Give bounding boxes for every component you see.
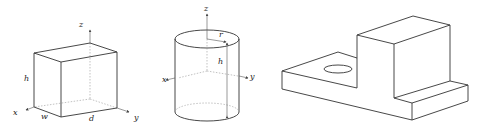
box-label-x: x bbox=[13, 108, 18, 117]
cyl-x-axis bbox=[166, 78, 175, 80]
box-label-y: y bbox=[133, 113, 139, 122]
hole-ellipse bbox=[324, 65, 352, 73]
cylinder-bottom-front bbox=[175, 112, 239, 121]
box-label-h: h bbox=[24, 74, 29, 83]
cyl-y-hidden bbox=[207, 71, 238, 76]
cyl-label-z: z bbox=[203, 4, 209, 13]
cyl-label-h: h bbox=[218, 57, 223, 66]
box-hidden-right bbox=[90, 99, 117, 108]
base-front-face bbox=[282, 71, 412, 120]
base-left-top bbox=[282, 52, 357, 88]
box-figure: z h x w d y bbox=[13, 20, 139, 123]
box-label-w: w bbox=[41, 112, 48, 121]
diagram-canvas: z h x w d y z r h x y bbox=[0, 0, 485, 133]
box-y-axis bbox=[117, 108, 129, 112]
box-x-axis bbox=[26, 107, 34, 110]
box-top-face bbox=[34, 43, 117, 62]
cyl-y-axis bbox=[239, 76, 248, 78]
stepped-block-figure bbox=[282, 16, 468, 120]
cyl-label-y: y bbox=[249, 72, 255, 81]
cyl-x-hidden bbox=[178, 71, 207, 78]
base-right-top bbox=[394, 81, 468, 103]
cylinder-figure: z r h x y bbox=[162, 4, 255, 121]
box-outline bbox=[34, 52, 117, 117]
tower-top-face bbox=[357, 16, 450, 44]
box-label-z: z bbox=[78, 20, 84, 29]
cyl-radius bbox=[207, 39, 226, 42]
cylinder-bottom-back bbox=[175, 103, 239, 112]
box-label-d: d bbox=[89, 114, 94, 123]
box-hidden-left bbox=[34, 99, 90, 107]
cyl-label-x: x bbox=[162, 75, 167, 84]
